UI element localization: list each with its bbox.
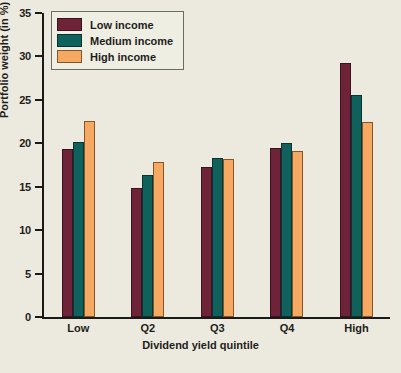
- bar: [351, 95, 362, 317]
- legend-label: High income: [90, 51, 156, 63]
- x-axis-title: Dividend yield quintile: [0, 339, 401, 351]
- y-axis-tick-label: 20: [19, 137, 31, 149]
- x-axis-tick-label: Q4: [280, 322, 295, 334]
- y-axis-tick: [35, 55, 42, 57]
- bar: [84, 121, 95, 317]
- legend-item: High income: [57, 49, 173, 64]
- y-axis-tick: [35, 12, 42, 14]
- x-axis-tick-label: Q2: [140, 322, 155, 334]
- bar-group: [340, 13, 373, 317]
- bar: [270, 148, 281, 317]
- bar-group: [270, 13, 303, 317]
- y-axis-tick-label: 35: [19, 7, 31, 19]
- y-axis-tick-label: 10: [19, 224, 31, 236]
- x-axis-tick-label: Low: [67, 322, 89, 334]
- y-axis-tick-label: 5: [25, 268, 31, 280]
- bar: [281, 143, 292, 317]
- figure-caption: [40, 362, 397, 373]
- y-axis-tick-label: 15: [19, 181, 31, 193]
- legend-swatch-low-income: [57, 18, 82, 31]
- legend: Low income Medium income High income: [51, 11, 184, 70]
- legend-swatch-high-income: [57, 50, 82, 63]
- bar: [212, 158, 223, 317]
- bar: [292, 151, 303, 317]
- x-axis-tick-label: High: [344, 322, 368, 334]
- y-axis-tick: [35, 186, 42, 188]
- legend-item: Low income: [57, 17, 173, 32]
- x-axis-tick-label: Q3: [210, 322, 225, 334]
- bar: [153, 162, 164, 317]
- y-axis-tick: [35, 142, 42, 144]
- y-axis-tick: [35, 273, 42, 275]
- legend-label: Low income: [90, 19, 154, 31]
- y-axis-tick-label: 0: [25, 311, 31, 323]
- legend-item: Medium income: [57, 33, 173, 48]
- bar: [73, 142, 84, 317]
- bar: [131, 188, 142, 317]
- y-axis-title: Portfolio weight (in %): [0, 0, 10, 118]
- y-axis-tick: [35, 99, 42, 101]
- x-axis-line: [42, 317, 390, 319]
- bar-chart: 05101520253035 Portfolio weight (in %) D…: [0, 0, 401, 373]
- y-axis-tick-label: 25: [19, 94, 31, 106]
- bar: [201, 167, 212, 317]
- bar-group: [201, 13, 234, 317]
- legend-swatch-medium-income: [57, 34, 82, 47]
- y-axis-tick-label: 30: [19, 50, 31, 62]
- bar: [340, 63, 351, 317]
- y-axis-tick: [35, 316, 42, 318]
- bar: [62, 149, 73, 318]
- y-axis-tick: [35, 229, 42, 231]
- bar: [223, 159, 234, 317]
- legend-label: Medium income: [90, 35, 173, 47]
- bar: [142, 175, 153, 317]
- bar: [362, 122, 373, 317]
